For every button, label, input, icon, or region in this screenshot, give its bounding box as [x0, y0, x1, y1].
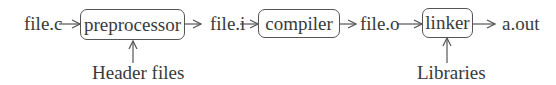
stage-compiler: compiler [258, 9, 340, 38]
stage-preprocessor-label: preprocessor [84, 14, 181, 36]
stage-linker-label: linker [425, 12, 469, 34]
label-a-out: a.out [502, 13, 539, 35]
label-file-o: file.o [360, 13, 400, 35]
stage-compiler-label: compiler [265, 13, 333, 35]
label-file-c: file.c [24, 13, 63, 35]
label-file-i: file.i [210, 13, 245, 35]
label-header-files: Header files [92, 62, 184, 84]
stage-linker: linker [422, 8, 473, 38]
label-libraries: Libraries [417, 62, 486, 84]
stage-preprocessor: preprocessor [80, 9, 185, 40]
